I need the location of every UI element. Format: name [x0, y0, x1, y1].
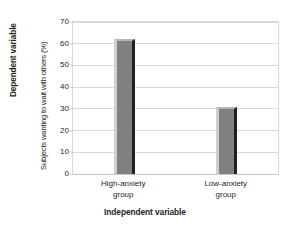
x-category-label-0-line2: group [73, 190, 173, 201]
bar-chart-figure: Dependent variable Subjects wanting to w… [0, 0, 290, 227]
x-category-label-1-line2: group [176, 190, 276, 201]
y-tick-mark-70 [70, 22, 73, 23]
y-tick-label-20: 20 [60, 127, 69, 135]
y-axis-outer-label: Dependent variable [10, 0, 18, 120]
y-tick-label-10: 10 [60, 148, 69, 156]
y-axis-title: Subjects wanting to wait with others (%) [40, 18, 48, 194]
y-tick-label-0: 0 [65, 170, 69, 178]
x-axis-title: Independent variable [0, 207, 290, 217]
bar-slot-1 [176, 107, 279, 174]
y-tick-label-40: 40 [60, 83, 69, 91]
x-category-label-1-line1: Low-anxiety [176, 179, 276, 190]
x-category-label-0-line1: High-anxiety [73, 179, 173, 190]
x-category-label-1: Low-anxiety group [176, 179, 276, 200]
y-tick-label-50: 50 [60, 61, 69, 69]
bar-0 [114, 39, 135, 174]
gridline-70 [73, 22, 278, 23]
bar-slot-0 [73, 39, 176, 174]
x-category-label-0: High-anxiety group [73, 179, 173, 200]
bar-1 [216, 107, 237, 174]
y-tick-label-30: 30 [60, 105, 69, 113]
y-tick-label-70: 70 [60, 18, 69, 26]
plot-area: 010203040506070 [72, 21, 279, 175]
y-tick-label-60: 60 [60, 40, 69, 48]
